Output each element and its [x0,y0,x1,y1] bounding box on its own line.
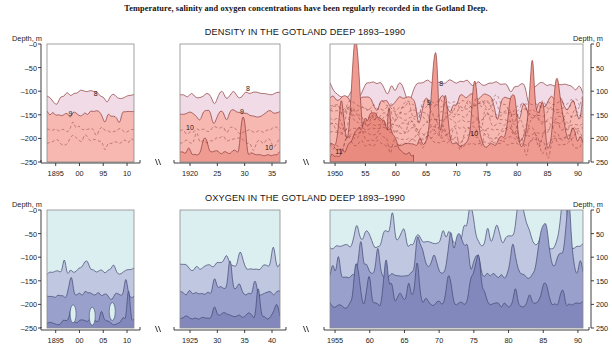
y-tick-label-right: 100 [596,253,608,262]
x-tick-label: 30 [241,169,249,178]
y-tick-label-left: –200 [6,300,37,309]
x-tick-label: 1955 [327,336,343,345]
x-tick-label: 1925 [182,336,198,345]
y-tick-label-left: –200 [6,134,37,143]
contour-label: 9 [240,108,244,115]
x-tick-label: 05 [99,336,107,345]
x-tick-label: 1920 [182,169,198,178]
x-tick-label: 1950 [327,169,343,178]
density-panel-3: 891011 [330,39,583,162]
x-tick-label: 35 [241,336,249,345]
oxygen-section-title: OXYGEN IN THE GOTLAND DEEP 1893–1990 [140,193,470,203]
y-tick-label-right: 100 [596,87,608,96]
oxygen-panel-3 [330,190,583,328]
y-tick-label-right: 50 [596,229,604,238]
figure-root: Temperature, salinity and oxygen concent… [0,0,612,362]
density-panel-2: 891010 [180,44,280,162]
x-tick-label: 90 [574,336,582,345]
x-tick-label: 10 [123,336,131,345]
x-tick-label: 65 [400,336,408,345]
x-tick-label: 60 [392,169,400,178]
x-tick-label: 90 [574,169,582,178]
y-tick-label-left: –50 [6,63,37,72]
x-tick-label: 35 [268,169,276,178]
x-tick-label: 70 [435,336,443,345]
x-tick-label: 1895 [48,336,64,345]
contour-plot-canvas: 89891010891011 [0,0,612,362]
x-tick-label: 65 [422,169,430,178]
y-tick-label-right: 0 [596,40,600,49]
contour-label: 9 [427,99,431,106]
y-tick-label-left: –250 [6,324,37,333]
x-tick-label: 70 [452,169,460,178]
contour-label: 10 [265,144,273,151]
x-tick-label: 30 [213,336,221,345]
y-tick-label-left: –100 [6,253,37,262]
x-tick-label: 00 [75,169,83,178]
y-tick-label-left: –50 [6,229,37,238]
x-tick-label: 25 [213,169,221,178]
y-tick-label-left: –150 [6,276,37,285]
x-tick-label: 85 [539,336,547,345]
density-panel-1: 89 [47,44,134,162]
contour-label: 8 [94,90,98,97]
density-section-title: DENSITY IN THE GOTLAND DEEP 1893–1990 [140,27,470,37]
x-tick-label: 55 [361,169,369,178]
contour-label: 10 [186,124,194,131]
contour-label: 8 [246,85,250,92]
x-tick-label: 85 [544,169,552,178]
y-tick-label-right: 250 [596,158,608,167]
y-tick-label-left: –0 [6,40,37,49]
contour-label: 8 [439,80,443,87]
x-tick-label: 95 [99,169,107,178]
y-tick-label-right: 150 [596,110,608,119]
y-tick-label-right: 200 [596,134,608,143]
figure-caption: Temperature, salinity and oxygen concent… [0,4,612,13]
y-tick-label-left: –0 [6,206,37,215]
x-tick-label: 75 [470,336,478,345]
x-tick-label: 00 [75,336,83,345]
contour-label: 9 [69,110,73,117]
y-tick-label-right: 50 [596,63,604,72]
x-tick-label: 80 [504,336,512,345]
y-tick-label-right: 200 [596,300,608,309]
y-tick-label-left: –100 [6,87,37,96]
x-tick-label: 60 [366,336,374,345]
x-tick-label: 10 [123,169,131,178]
oxygen-panel-2 [180,210,280,328]
y-tick-label-right: 150 [596,276,608,285]
oxygen-panel-1 [47,210,134,328]
contour-label: 11 [335,148,342,155]
y-tick-label-right: 250 [596,324,608,333]
x-tick-label: 40 [268,336,276,345]
y-tick-label-left: –250 [6,158,37,167]
contour-label: 10 [470,130,478,137]
x-tick-label: 1895 [48,169,64,178]
y-tick-label-right: 0 [596,206,600,215]
y-tick-label-left: –150 [6,110,37,119]
x-tick-label: 80 [513,169,521,178]
x-tick-label: 75 [483,169,491,178]
